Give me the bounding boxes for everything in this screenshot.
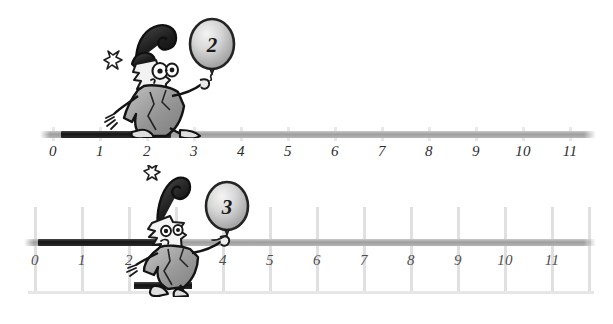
tick-label: 1 [87,143,113,159]
grid-line [588,207,591,294]
tick-label: 2 [134,143,160,159]
balloon-3: 3 [200,180,254,242]
grid-line [504,207,507,294]
tick-label: 0 [40,143,66,159]
grid-line [551,207,554,294]
grid-line [34,207,37,294]
tick-label: 5 [275,143,301,159]
balloon-number: 2 [184,33,240,58]
tick-label: 11 [539,252,565,268]
number-line-bottom: 0 1 2 3 4 5 6 7 8 9 10 11 [0,165,613,324]
tick-label: 10 [510,143,536,159]
tick-label: 1 [69,252,95,268]
grid-line [363,207,366,294]
tick-label: 8 [398,252,424,268]
balloon-number: 3 [200,195,254,220]
tick-label: 0 [22,252,48,268]
grid-line [269,207,272,294]
grid-line [457,207,460,294]
tick-label: 7 [369,143,395,159]
tick-label: 9 [445,252,471,268]
tick-label: 8 [416,143,442,159]
grid-baseline [28,291,594,294]
grid-line [316,207,319,294]
tick-label: 6 [322,143,348,159]
tick-label: 5 [257,252,283,268]
balloon-2: 2 [184,17,240,81]
tick-label: 6 [304,252,330,268]
grid-line [81,207,84,294]
axis-rule-grey [166,131,596,138]
tick-label: 4 [228,143,254,159]
grid-line [410,207,413,294]
tick-label: 3 [181,143,207,159]
tick-label: 7 [351,252,377,268]
tick-label: 11 [557,143,583,159]
tick-label: 9 [463,143,489,159]
tick-label: 10 [492,252,518,268]
illustration-stage: 0 1 2 3 4 5 6 7 8 9 10 11 [0,0,613,324]
number-line-top: 0 1 2 3 4 5 6 7 8 9 10 11 [0,0,613,165]
